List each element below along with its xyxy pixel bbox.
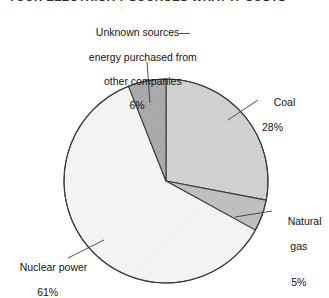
- slice-label-unknown-sources-line2: energy purchased from: [89, 51, 197, 63]
- slice-value-natural-gas: 5%: [276, 276, 322, 288]
- pie-chart-figure: YOUR ELECTRICITY SOURCES WHAT IT COSTS: [0, 0, 329, 298]
- slice-label-natural-gas-line2: gas: [276, 240, 322, 252]
- slice-value-nuclear-power: 61%: [8, 286, 87, 298]
- slice-value-unknown-sources: 6%: [57, 99, 217, 111]
- slice-label-unknown-sources: Unknown sources— energy purchased from o…: [57, 14, 217, 136]
- slice-label-natural-gas: Natural gas 5%: [276, 203, 322, 298]
- slice-label-unknown-sources-line1: Unknown sources—: [96, 26, 190, 38]
- slice-value-coal: 28%: [262, 121, 295, 133]
- slice-label-natural-gas-line1: Natural: [288, 215, 322, 227]
- slice-label-coal-text: Coal: [274, 96, 296, 108]
- slice-label-coal: Coal 28%: [262, 84, 295, 157]
- slice-label-nuclear-power-text: Nuclear power: [20, 261, 88, 273]
- slice-label-unknown-sources-line3: other companies: [104, 75, 182, 87]
- slice-label-nuclear-power: Nuclear power 61%: [8, 249, 87, 298]
